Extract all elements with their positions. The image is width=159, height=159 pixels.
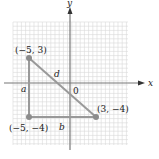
coordinate-plane: x y 0 (−5, 3) (3, −4) (−5, −4) a b d <box>0 0 159 159</box>
point-p2-label: (3, −4) <box>97 104 129 114</box>
segment-a-label: a <box>21 84 26 94</box>
point-p2 <box>93 114 99 120</box>
y-axis-arrow-icon <box>68 7 73 14</box>
point-p3-label: (−5, −4) <box>9 123 48 133</box>
triangle <box>29 58 96 117</box>
x-axis-label: x <box>148 78 153 88</box>
origin-label: 0 <box>73 86 79 96</box>
segment-d <box>29 58 96 117</box>
x-axis-arrow-icon <box>138 81 145 86</box>
segment-b-label: b <box>59 122 65 132</box>
point-p1-label: (−5, 3) <box>15 45 47 55</box>
y-axis-label: y <box>66 0 73 8</box>
segment-d-label: d <box>54 69 60 79</box>
point-p3 <box>26 114 32 120</box>
point-p1 <box>26 55 32 61</box>
